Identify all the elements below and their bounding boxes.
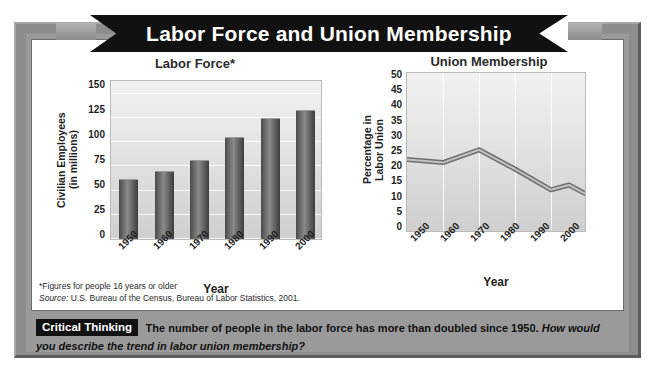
y-axis-tick: 15 (391, 176, 402, 186)
line-series-union-membership (407, 73, 586, 232)
y-axis-tick: 20 (391, 161, 402, 171)
source-text: U.S. Bureau of the Census, Bureau of Lab… (68, 293, 300, 303)
gridline-horizontal (111, 141, 321, 142)
title-ribbon: Labor Force and Union Membership (90, 15, 568, 52)
y-axis-label-labor-force: Civilian Employees (in millions) (55, 85, 79, 235)
critical-thinking-statement: The number of people in the labor force … (146, 322, 542, 334)
source-line: Source: U.S. Bureau of the Census, Burea… (39, 293, 459, 304)
ribbon-tail-right (562, 23, 602, 40)
y-axis-tick: 25 (94, 205, 105, 215)
gridline-horizontal (111, 238, 321, 239)
gridline-horizontal (111, 93, 321, 94)
chart-title-union-membership: Union Membership (358, 54, 620, 69)
plot-area-labor-force (110, 80, 322, 240)
x-axis-ticks-union-membership: 195019601970198019902000 (406, 234, 586, 274)
chart-title-labor-force: Labor Force* (35, 56, 355, 71)
figure-root: Labor Force and Union Membership Labor F… (0, 0, 655, 370)
figure-notes: *Figures for people 16 years or older So… (39, 281, 459, 304)
y-axis-tick: 5 (396, 207, 402, 217)
chart-union-membership: Union Membership Percentage in Labor Uni… (358, 39, 620, 269)
critical-thinking-bar: Critical Thinking The number of people i… (26, 314, 629, 352)
charts-row: Labor Force* Civilian Employees (in mill… (31, 39, 624, 269)
y-axis-tick: 125 (88, 105, 105, 115)
y-axis-tick: 75 (94, 155, 105, 165)
y-axis-ticks-labor-force: 1501251007550250 (79, 85, 105, 235)
y-axis-tick: 0 (396, 222, 402, 232)
critical-thinking-content: Critical Thinking The number of people i… (36, 318, 621, 354)
bar (190, 160, 209, 240)
y-axis-tick: 50 (391, 70, 402, 80)
gridline-horizontal (111, 165, 321, 166)
plot-area-union-membership (406, 72, 586, 232)
y-axis-tick: 10 (391, 192, 402, 202)
bar (155, 171, 174, 239)
gridline-horizontal (111, 214, 321, 215)
source-label: Source: (39, 293, 68, 303)
x-axis-ticks-labor-force: 195019601970198019902000 (110, 242, 322, 282)
y-axis-tick: 45 (391, 85, 402, 95)
y-axis-tick: 40 (391, 100, 402, 110)
y-axis-ticks-union-membership: 50454035302520151050 (376, 75, 402, 227)
gridline-horizontal (111, 190, 321, 191)
bar (261, 118, 280, 239)
y-axis-tick: 0 (99, 230, 105, 240)
figure-title: Labor Force and Union Membership (90, 15, 568, 52)
bar (296, 110, 315, 239)
y-axis-tick: 25 (391, 146, 402, 156)
y-axis-tick: 50 (94, 180, 105, 190)
chart-labor-force: Labor Force* Civilian Employees (in mill… (35, 39, 355, 269)
y-axis-tick: 100 (88, 130, 105, 140)
critical-thinking-badge: Critical Thinking (36, 319, 138, 336)
y-axis-tick: 35 (391, 116, 402, 126)
y-axis-tick: 30 (391, 131, 402, 141)
bar (225, 137, 244, 239)
y-axis-tick: 150 (88, 80, 105, 90)
gridline-horizontal (111, 117, 321, 118)
y-axis-label-line1: Percentage in (361, 116, 373, 185)
y-axis-label-line2: (in millions) (67, 131, 79, 190)
y-axis-label-line1: Civilian Employees (55, 112, 67, 208)
footnote-text: *Figures for people 16 years or older (39, 281, 459, 292)
